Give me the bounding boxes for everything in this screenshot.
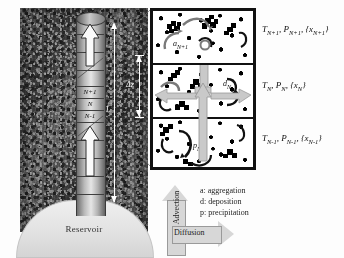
length-dimension-arrow-top	[111, 22, 117, 29]
length-dimension-line	[114, 28, 115, 202]
cell-height-dim-cap-bottom	[135, 117, 144, 118]
particle-motion-curve	[239, 33, 246, 47]
well-cell-divider	[76, 158, 104, 159]
well-cell-divider	[76, 194, 104, 195]
process-legend: a: aggregation d: deposition p: precipit…	[200, 185, 249, 218]
precipitation-curve-head	[180, 153, 185, 158]
inflow-arrow-right	[211, 89, 251, 103]
aggregate-cluster	[224, 23, 236, 35]
cell-n-plus-1: aN+1	[153, 11, 253, 65]
deposition-symbol-label: dN	[223, 79, 231, 90]
aggregate-cluster	[160, 124, 173, 136]
reservoir-label: Reservoir	[16, 224, 152, 234]
particle-motion-curve	[191, 155, 211, 165]
legend-item-deposition: d: deposition	[200, 196, 249, 207]
aggregate-cluster	[175, 101, 189, 110]
downflow-shaft	[200, 65, 208, 89]
cell-height-arrow-bottom	[136, 110, 142, 117]
cell-n-minus-1: pN-1	[153, 119, 253, 167]
state-label-cell-n: TN, PN, {xN}	[262, 80, 306, 92]
cells-zoom-panel: aN+1	[150, 8, 256, 170]
legend-item-aggregation: a: aggregation	[200, 185, 249, 196]
well-cell-label-n-plus-1: N+1	[76, 87, 104, 97]
process-curve	[161, 83, 179, 91]
particle-motion-curve	[162, 139, 173, 152]
state-label-cell-n-plus-1: TN+1, PN+1, {xN+1}	[262, 24, 329, 36]
aggregate-cluster	[223, 149, 237, 158]
gray-flow-arrows	[155, 65, 251, 103]
state-label-cell-n-minus-1: TN-1, PN-1, {xN-1}	[262, 133, 322, 145]
length-dimension-arrow-bottom	[111, 196, 117, 203]
well-cell-label-n-minus-1: N-1	[76, 111, 104, 121]
aggregation-loop	[201, 41, 210, 50]
cell-n: dN	[153, 65, 253, 119]
advection-label: Advection	[172, 185, 181, 231]
well-cell-divider	[76, 176, 104, 177]
well-cell-divider	[76, 52, 104, 53]
well-cell-divider	[76, 140, 104, 141]
particle-motion-curve	[237, 125, 244, 141]
aggregate-cluster	[168, 70, 180, 81]
aggregation-symbol-label: aN+1	[173, 39, 188, 50]
diffusion-label: Diffusion	[174, 228, 220, 237]
figure-root: Reservoir N+1 N N-1 L Δz	[0, 0, 344, 258]
precipitation-curve	[179, 131, 191, 157]
length-dimension-label: L	[106, 105, 110, 114]
well-cell-divider	[76, 34, 104, 35]
well-cell-divider	[76, 122, 104, 123]
well-cell-label-n: N	[76, 99, 104, 109]
cell-height-arrow-top	[136, 55, 142, 62]
well-cell-divider	[76, 70, 104, 71]
legend-item-precipitation: p: precipitation	[200, 207, 249, 218]
cell-height-dimension-line	[139, 55, 140, 117]
precipitation-symbol-label: pN-1	[193, 141, 206, 152]
downflow-head-base	[195, 87, 211, 93]
wellbore-cap	[76, 12, 106, 26]
cell-height-label: Δz	[126, 80, 134, 89]
